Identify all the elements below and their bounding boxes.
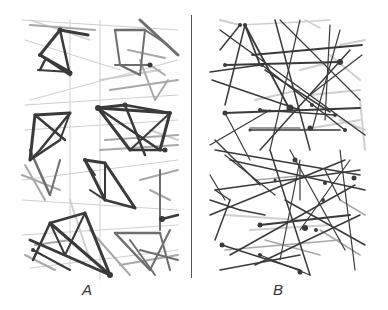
- network-edge: [85, 160, 105, 163]
- network-edge: [360, 100, 365, 150]
- network-edge: [285, 200, 365, 245]
- network-node: [287, 105, 294, 112]
- network-edge: [220, 20, 240, 25]
- network-edge: [120, 65, 140, 75]
- network-node: [163, 148, 168, 153]
- network-node: [223, 63, 227, 67]
- network-node: [238, 23, 242, 27]
- network-node: [337, 59, 343, 65]
- network-node: [258, 253, 262, 257]
- network-node: [168, 111, 172, 115]
- network-edge: [210, 175, 225, 200]
- panel-b-label: B: [273, 281, 283, 298]
- panel-divider: [191, 15, 192, 278]
- network-node: [308, 126, 313, 131]
- network-node: [58, 28, 63, 33]
- network-edge: [340, 200, 365, 215]
- network-node: [159, 216, 165, 222]
- network-node: [321, 198, 325, 202]
- network-node: [31, 248, 35, 252]
- network-node: [243, 23, 247, 27]
- network-edge: [240, 210, 265, 215]
- network-edge: [225, 155, 275, 195]
- network-node: [123, 103, 128, 108]
- network-node: [293, 158, 298, 163]
- network-node: [83, 158, 87, 162]
- network-node: [298, 270, 303, 275]
- network-edge: [50, 213, 85, 223]
- network-edge: [110, 80, 178, 90]
- network-node: [333, 113, 337, 117]
- network-node: [258, 108, 262, 112]
- network-node: [314, 228, 318, 232]
- network-edge: [140, 20, 178, 55]
- network-figure: [0, 0, 388, 310]
- network-edge: [215, 200, 230, 240]
- network-edge: [115, 30, 120, 65]
- network-edge: [320, 230, 360, 255]
- network-edge: [40, 30, 60, 55]
- network-edge: [240, 22, 300, 25]
- network-edge: [70, 200, 90, 260]
- network-edge: [255, 215, 360, 265]
- network-edge: [60, 113, 70, 140]
- network-edge: [100, 70, 160, 80]
- network-node: [260, 63, 264, 67]
- network-node: [302, 225, 308, 231]
- network-node: [352, 176, 357, 181]
- network-node: [323, 181, 327, 185]
- panel-a-clustered-network: [22, 20, 178, 280]
- network-edge: [262, 65, 345, 130]
- network-node: [107, 272, 113, 278]
- network-node: [274, 179, 277, 182]
- panel-b-random-network: [210, 20, 365, 275]
- network-node: [258, 223, 263, 228]
- network-node: [343, 128, 347, 132]
- network-edge: [255, 90, 300, 100]
- network-edge: [25, 255, 55, 270]
- network-edge: [128, 50, 165, 58]
- network-edge: [260, 50, 350, 150]
- network-node: [223, 111, 228, 116]
- network-node: [38, 53, 42, 57]
- network-node: [148, 63, 153, 68]
- network-edge: [150, 65, 165, 75]
- network-edge: [120, 255, 178, 265]
- network-node: [68, 71, 73, 76]
- network-node: [249, 129, 252, 132]
- network-edge: [35, 113, 70, 115]
- network-edge: [98, 108, 130, 150]
- network-node: [310, 103, 314, 107]
- panel-a-label: A: [82, 281, 92, 298]
- network-node: [220, 243, 225, 248]
- network-edge: [130, 240, 155, 275]
- network-edge: [40, 60, 45, 70]
- network-node: [95, 105, 101, 111]
- network-edge: [340, 150, 355, 270]
